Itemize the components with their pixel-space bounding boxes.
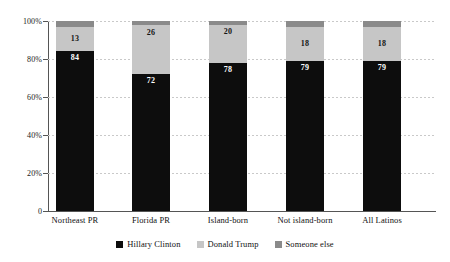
bar-segment-donald-trump[interactable]: 18: [363, 27, 401, 61]
x-axis-line: [48, 211, 436, 212]
bar-value-label: 26: [147, 29, 155, 37]
bar-value-label: 79: [378, 64, 386, 72]
bar-value-label: 78: [224, 66, 232, 74]
legend-item-someone-else[interactable]: Someone else: [275, 239, 334, 249]
y-axis-tick-label-60: 60%: [2, 93, 42, 102]
legend-swatch-icon: [197, 241, 204, 248]
y-axis-tick-label-80: 80%: [2, 55, 42, 64]
legend-label: Donald Trump: [208, 239, 259, 249]
bar-segment-hillary-clinton[interactable]: 84: [56, 51, 94, 211]
legend-swatch-icon: [275, 241, 282, 248]
x-axis-label-florida-pr: Florida PR: [132, 215, 170, 225]
bar-value-label: 13: [71, 35, 79, 43]
bar-segment-donald-trump[interactable]: 26: [132, 25, 170, 74]
bar-segment-donald-trump[interactable]: 18: [286, 27, 324, 61]
legend-swatch-icon: [116, 241, 123, 248]
chart-legend: Hillary Clinton Donald Trump Someone els…: [0, 239, 450, 249]
legend-label: Someone else: [286, 239, 334, 249]
plot-area: 13 84 26 72 20: [48, 21, 436, 211]
y-axis-tick-label-0: 0: [2, 207, 42, 216]
bar-value-label: 20: [224, 28, 232, 36]
bar-segment-hillary-clinton[interactable]: 78: [209, 63, 247, 211]
stacked-bar-chart: 100% 80% 60% 40% 20% 0 13 84: [0, 0, 450, 262]
y-axis-tick-label-40: 40%: [2, 131, 42, 140]
bar-segment-hillary-clinton[interactable]: 79: [286, 61, 324, 211]
bar-value-label: 18: [378, 40, 386, 48]
y-axis-tick-label-100: 100%: [2, 17, 42, 26]
x-axis-label-northeast-pr: Northeast PR: [52, 215, 99, 225]
y-axis-tick-label-20: 20%: [2, 169, 42, 178]
bar-value-label: 79: [301, 64, 309, 72]
bar-segment-hillary-clinton[interactable]: 79: [363, 61, 401, 211]
bar-segment-donald-trump[interactable]: 13: [56, 27, 94, 52]
x-axis-label-island-born: Island-born: [208, 215, 248, 225]
legend-label: Hillary Clinton: [127, 239, 180, 249]
bar-segment-donald-trump[interactable]: 20: [209, 25, 247, 63]
legend-item-hillary-clinton[interactable]: Hillary Clinton: [116, 239, 180, 249]
x-axis-label-all-latinos: All Latinos: [362, 215, 402, 225]
bar-value-label: 18: [301, 40, 309, 48]
bar-segment-hillary-clinton[interactable]: 72: [132, 74, 170, 211]
legend-item-donald-trump[interactable]: Donald Trump: [197, 239, 259, 249]
bar-value-label: 84: [71, 54, 79, 62]
x-axis-label-not-island-born: Not island-born: [277, 215, 332, 225]
bar-value-label: 72: [147, 77, 155, 85]
